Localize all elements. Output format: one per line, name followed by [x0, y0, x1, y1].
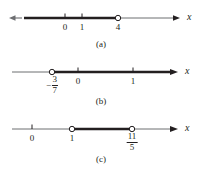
open-circle-endpoint-a-4	[115, 15, 120, 20]
endpoint-label-c-eleven-fifths: 11 5	[127, 133, 138, 154]
tick-label-a-0: 0	[63, 23, 68, 32]
panel-caption-a: (a)	[0, 40, 202, 49]
number-line-panel-c: 0 1 11 5 x (c)	[0, 113, 202, 171]
tick-label-b-1: 1	[131, 77, 136, 86]
number-line-axis-b	[0, 56, 202, 96]
panel-caption-c: (c)	[0, 155, 202, 164]
endpoint-label-b-neg-three-sevenths: − 3 7	[46, 76, 58, 97]
right-arrow-icon-c	[170, 126, 178, 132]
axis-variable-label-a: x	[187, 12, 191, 22]
number-line-axis-a	[0, 0, 202, 40]
minus-sign-b: −	[46, 81, 51, 90]
fraction-numerator-b: 3	[52, 75, 59, 84]
number-line-panel-a: 0 1 4 x (a)	[0, 0, 202, 56]
left-arrow-icon-a	[9, 15, 22, 20]
fraction-numerator-c: 11	[127, 132, 138, 141]
axis-variable-label-c: x	[185, 123, 189, 133]
tick-label-a-1: 1	[80, 23, 85, 32]
tick-label-c-0: 0	[30, 134, 35, 143]
open-circle-endpoint-c-1	[69, 126, 74, 131]
axis-variable-label-b: x	[185, 66, 189, 76]
fraction-denominator-b: 7	[52, 86, 59, 95]
number-line-panel-b: 0 1 − 3 7 x (b)	[0, 56, 202, 113]
number-line-figure: 0 1 4 x (a) 0 1 − 3	[0, 0, 202, 171]
tick-label-b-0: 0	[76, 77, 81, 86]
fraction-b: 3 7	[52, 75, 59, 96]
panel-caption-b: (b)	[0, 97, 202, 106]
endpoint-label-a-4: 4	[116, 23, 121, 32]
endpoint-label-c-1: 1	[70, 134, 75, 143]
fraction-negative-three-sevenths: − 3 7	[46, 76, 58, 97]
right-arrow-icon-a	[173, 15, 180, 20]
fraction-eleven-fifths: 11 5	[127, 132, 138, 153]
fraction-denominator-c: 5	[127, 143, 138, 152]
